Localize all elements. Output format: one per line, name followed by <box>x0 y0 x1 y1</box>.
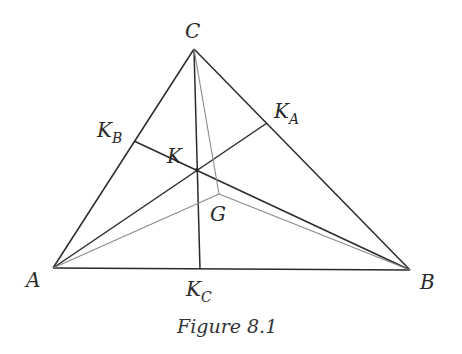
cevian-c-kc <box>194 49 200 269</box>
side-ab <box>53 268 410 270</box>
label-k: K <box>166 144 183 168</box>
label-kb: KB <box>96 118 122 146</box>
label-kc: KC <box>185 277 212 305</box>
label-c: C <box>185 19 200 43</box>
cevian-a-ka <box>53 123 267 268</box>
triangle-diagram: C A B K G KA KB KC Figure 8.1 <box>0 0 462 354</box>
label-b: B <box>419 270 435 294</box>
figure-caption: Figure 8.1 <box>176 315 277 337</box>
median-a-g <box>53 194 219 268</box>
label-g: G <box>210 202 226 226</box>
side-bc <box>194 49 410 270</box>
label-ka: KA <box>273 99 299 127</box>
point-k-dot <box>195 168 199 172</box>
median-b-g <box>219 194 410 270</box>
label-a: A <box>24 268 40 292</box>
